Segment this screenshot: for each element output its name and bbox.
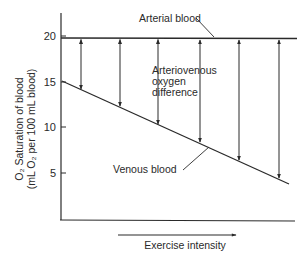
arterial-leader-line: [196, 18, 214, 37]
venous-blood-label: Venous blood: [113, 163, 177, 175]
arterial-blood-line: [61, 38, 297, 39]
x-axis-title: Exercise intensity: [144, 239, 226, 251]
y-tick-label-5: 5: [50, 167, 56, 179]
av-label-line3: difference: [152, 86, 198, 98]
x-axis: [60, 220, 295, 221]
av-oxygen-difference-chart: 20 15 10 5 O₂ Saturation of blood (mL O₂…: [0, 0, 306, 256]
axes: [60, 13, 295, 221]
av-difference-arrows: [81, 40, 279, 179]
venous-leader-line: [183, 147, 209, 170]
y-axis-title-line2: (mL O₂ per 100 mL blood): [25, 69, 37, 190]
y-tick-label-20: 20: [44, 30, 56, 42]
av-difference-label: Arteriovenous oxygen difference: [152, 64, 217, 98]
y-axis-title: O₂ Saturation of blood (mL O₂ per 100 mL…: [13, 69, 37, 190]
y-tick-label-10: 10: [44, 121, 56, 133]
y-tick-label-15: 15: [44, 76, 56, 88]
y-ticks: 20 15 10 5: [44, 30, 66, 179]
arterial-blood-label: Arterial blood: [139, 12, 201, 24]
y-axis-title-line1: O₂ Saturation of blood: [13, 77, 25, 180]
